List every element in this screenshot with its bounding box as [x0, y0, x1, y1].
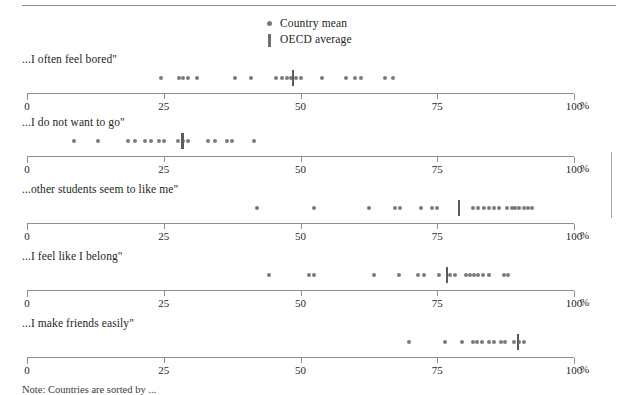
x-axis-tick — [437, 291, 438, 296]
country-mean-dot — [280, 76, 284, 80]
country-mean-dot — [505, 206, 509, 210]
country-mean-dot — [252, 139, 256, 143]
country-mean-dot — [294, 76, 298, 80]
country-mean-dot — [437, 273, 441, 277]
country-mean-dot — [480, 340, 484, 344]
x-axis-tick-label: 75 — [432, 163, 443, 175]
country-mean-dot — [372, 273, 376, 277]
country-mean-dot — [503, 340, 507, 344]
country-mean-dot — [476, 206, 480, 210]
country-mean-dot — [249, 76, 253, 80]
country-mean-dot — [159, 76, 163, 80]
x-axis-tick — [164, 358, 165, 363]
legend-label-oecd-average: OECD average — [280, 31, 352, 47]
x-axis-tick — [437, 94, 438, 99]
country-mean-dot — [195, 76, 199, 80]
x-axis-tick-label: 25 — [158, 163, 169, 175]
panel-title: ...other students seem to like me" — [22, 183, 178, 195]
country-mean-dot — [487, 340, 491, 344]
country-mean-dot — [487, 206, 491, 210]
oecd-average-marker — [446, 267, 448, 283]
country-mean-dot — [149, 139, 153, 143]
country-mean-dot — [133, 139, 137, 143]
country-mean-dot — [96, 139, 100, 143]
x-axis-tick — [301, 224, 302, 229]
x-axis-tick-label: 75 — [432, 297, 443, 309]
country-mean-dot — [476, 273, 480, 277]
country-mean-dot — [307, 273, 311, 277]
x-axis-unit-label: % — [580, 296, 589, 308]
country-mean-dot — [206, 139, 210, 143]
x-axis-tick-label: 25 — [158, 297, 169, 309]
country-mean-dot — [530, 206, 534, 210]
x-axis-tick — [437, 157, 438, 162]
country-mean-dot — [312, 206, 316, 210]
x-axis-tick-label: 25 — [158, 100, 169, 112]
country-mean-dot — [435, 206, 439, 210]
country-mean-dot — [233, 76, 237, 80]
country-mean-dot — [475, 340, 479, 344]
x-axis-tick — [301, 358, 302, 363]
oecd-average-marker — [292, 70, 294, 86]
country-mean-dot — [274, 76, 278, 80]
panel-plot-area — [27, 199, 574, 223]
country-mean-dot — [497, 206, 501, 210]
country-mean-dot — [320, 76, 324, 80]
x-axis-tick-label: 25 — [158, 230, 169, 242]
panel-title: ...I feel like I belong" — [22, 250, 123, 262]
country-mean-dot — [230, 139, 234, 143]
x-axis: 0255075100 — [27, 156, 574, 163]
panel-title: ...I do not want to go" — [22, 116, 125, 128]
country-mean-dot — [391, 76, 395, 80]
country-mean-dot — [176, 139, 180, 143]
chart-panel: ...I feel like I belong"0255075100% — [0, 250, 619, 312]
x-axis-tick-label: 75 — [432, 230, 443, 242]
panel-plot-area — [27, 132, 574, 156]
chart-panel: ...I make friends easily"0255075100% — [0, 317, 619, 379]
x-axis-tick-label: 75 — [432, 100, 443, 112]
legend-item-oecd-average: OECD average — [258, 30, 418, 46]
x-axis-tick — [301, 157, 302, 162]
x-axis-tick-label: 0 — [24, 230, 30, 242]
country-mean-dot — [126, 139, 130, 143]
panel-plot-area — [27, 69, 574, 93]
country-mean-dot — [482, 206, 486, 210]
country-mean-dot — [383, 76, 387, 80]
country-mean-dot — [517, 206, 521, 210]
country-mean-dot — [522, 340, 526, 344]
country-mean-dot — [157, 139, 161, 143]
x-axis: 0255075100 — [27, 223, 574, 230]
country-mean-dot — [162, 139, 166, 143]
panel-plot-area — [27, 333, 574, 357]
country-mean-dot — [443, 340, 447, 344]
country-mean-dot — [513, 206, 517, 210]
x-axis-tick-label: 0 — [24, 163, 30, 175]
country-mean-dot — [299, 76, 303, 80]
oecd-average-marker — [517, 334, 519, 350]
country-mean-dot — [344, 76, 348, 80]
country-mean-dot — [419, 206, 423, 210]
x-axis-tick — [437, 358, 438, 363]
x-axis-tick — [301, 94, 302, 99]
country-mean-dot — [506, 273, 510, 277]
x-axis-tick-label: 50 — [295, 364, 306, 376]
x-axis-tick-label: 0 — [24, 297, 30, 309]
country-mean-dot — [186, 76, 190, 80]
country-mean-dot — [430, 206, 434, 210]
country-mean-dot — [453, 273, 457, 277]
chart-panel: ...other students seem to like me"025507… — [0, 183, 619, 245]
country-mean-dot — [492, 206, 496, 210]
country-mean-dot — [422, 273, 426, 277]
country-mean-dot — [512, 340, 516, 344]
top-divider-rule — [22, 5, 616, 6]
country-mean-dot — [492, 340, 496, 344]
x-axis-unit-label: % — [580, 162, 589, 174]
x-axis-tick — [164, 94, 165, 99]
country-mean-dot — [460, 340, 464, 344]
x-axis-unit-label: % — [580, 99, 589, 111]
country-mean-dot — [72, 139, 76, 143]
x-axis-tick-label: 0 — [24, 100, 30, 112]
country-mean-dot — [471, 206, 475, 210]
country-mean-dot — [416, 273, 420, 277]
panel-title: ...I often feel bored" — [22, 53, 117, 65]
